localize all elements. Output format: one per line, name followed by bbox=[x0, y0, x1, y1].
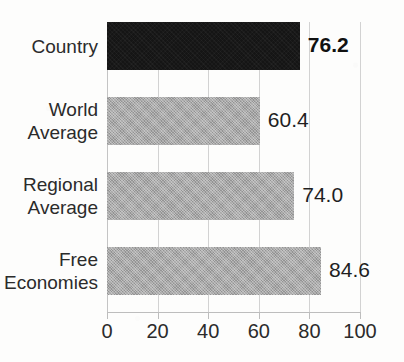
category-label-country: Country bbox=[0, 35, 98, 58]
x-tick-label-80: 80 bbox=[298, 320, 320, 343]
category-label-line: Regional bbox=[0, 173, 98, 196]
value-label-world-average: 60.4 bbox=[268, 108, 309, 132]
bar-row bbox=[107, 97, 360, 145]
x-tick-label-0: 0 bbox=[101, 320, 112, 343]
x-tick-label-100: 100 bbox=[343, 320, 376, 343]
x-tick-mark-20 bbox=[158, 312, 159, 319]
category-label-line: Country bbox=[0, 35, 98, 58]
category-label-line: Free bbox=[0, 248, 98, 271]
bar-regional-average bbox=[107, 172, 294, 220]
bar-row bbox=[107, 247, 360, 295]
bar-world-average bbox=[107, 97, 260, 145]
x-axis-line bbox=[107, 312, 361, 313]
x-tick-mark-0 bbox=[107, 312, 108, 319]
category-label-regional-average: RegionalAverage bbox=[0, 173, 98, 219]
x-tick-label-60: 60 bbox=[248, 320, 270, 343]
value-label-country: 76.2 bbox=[308, 33, 349, 57]
category-label-world-average: WorldAverage bbox=[0, 98, 98, 144]
category-label-line: Economies bbox=[0, 271, 98, 294]
bar-country bbox=[107, 22, 300, 70]
category-label-free-economies: FreeEconomies bbox=[0, 248, 98, 294]
x-tick-label-40: 40 bbox=[197, 320, 219, 343]
category-label-line: Average bbox=[0, 196, 98, 219]
x-tick-mark-40 bbox=[208, 312, 209, 319]
x-tick-mark-100 bbox=[360, 312, 361, 319]
bar-free-economies bbox=[107, 247, 321, 295]
x-tick-mark-80 bbox=[309, 312, 310, 319]
x-tick-mark-60 bbox=[259, 312, 260, 319]
bar-chart-figure: CountryWorldAverageRegionalAverageFreeEc… bbox=[0, 0, 404, 362]
plot-area bbox=[107, 22, 360, 312]
value-label-free-economies: 84.6 bbox=[329, 258, 370, 282]
category-label-line: World bbox=[0, 98, 98, 121]
chart-title bbox=[0, 0, 404, 3]
category-label-line: Average bbox=[0, 121, 98, 144]
value-label-regional-average: 74.0 bbox=[302, 183, 343, 207]
x-tick-label-20: 20 bbox=[146, 320, 168, 343]
